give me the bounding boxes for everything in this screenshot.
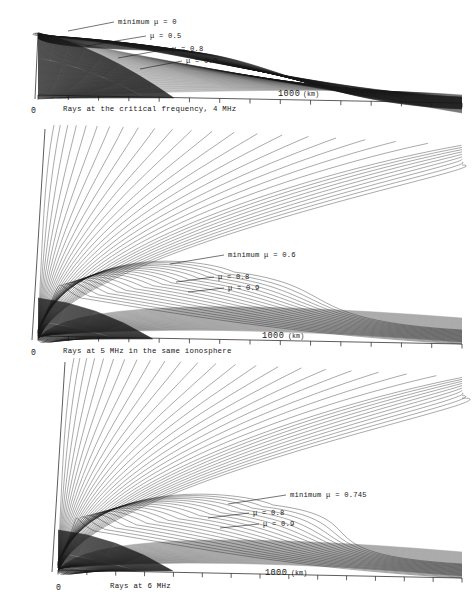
axis-major-label-6mhz: 1000 [265,568,287,578]
mu-label-2: μ = 0.9 [228,284,260,292]
axis-unit-label-4mhz: (km) [303,91,319,98]
mu-label-1: μ = 0.8 [253,509,285,517]
ray-tracing-figure: minimum μ = 0μ = 0.5μ = 0.8μ = 0.9 0 100… [0,0,472,612]
mu-label-1: μ = 0.5 [150,32,182,40]
axis-unit-label-5mhz: (km) [288,333,304,340]
axis-origin-label-6mhz: 0 [56,583,61,592]
panel-caption-6mhz: Rays at 6 MHz [110,582,171,590]
axis-origin-label-4mhz: 0 [31,106,36,115]
mu-label-0: minimum μ = 0 [118,18,177,26]
mu-label-2: μ = 0.8 [172,45,204,53]
axis-major-label-4mhz: 1000 [278,89,300,99]
mu-label-0: minimum μ = 0.745 [290,491,367,499]
panel-caption-5mhz: Rays at 5 MHz in the same ionosphere [63,347,232,355]
mu-label-2: μ = 0.9 [263,520,295,528]
mu-label-0: minimum μ = 0.6 [228,251,296,259]
mu-label-1: μ = 0.8 [218,273,250,281]
axis-major-label-5mhz: 1000 [262,331,284,341]
panel-caption-4mhz: Rays at the critical frequency, 4 MHz [63,105,236,113]
axis-unit-label-6mhz: (km) [291,570,307,577]
mu-label-3: μ = 0.9 [186,57,218,65]
axis-origin-label-5mhz: 0 [31,348,36,357]
